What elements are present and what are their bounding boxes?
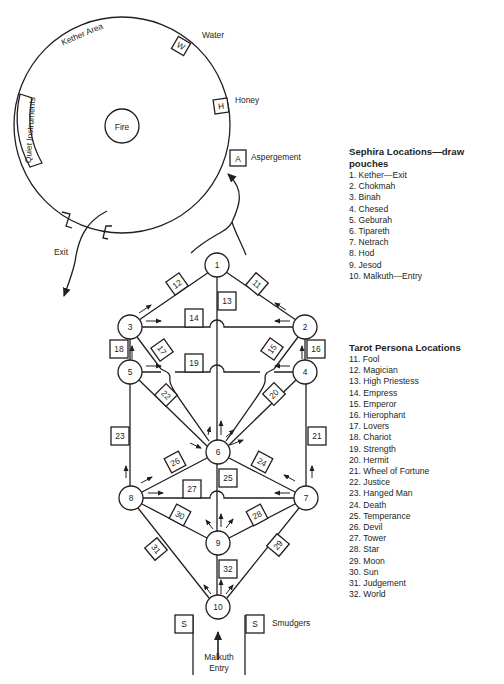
legend-item: 22. Justice	[349, 477, 461, 488]
node-label-4: 4	[303, 367, 308, 377]
path-label-19: 19	[189, 358, 199, 368]
water-label: Water	[202, 30, 224, 40]
legend-item: 13. High Priestess	[349, 376, 461, 387]
smudger-code-right: S	[252, 619, 258, 629]
legend-item: 20. Hermit	[349, 455, 461, 466]
legend-item: 29. Moon	[349, 556, 461, 567]
legend-item: 28. Star	[349, 544, 461, 555]
sephira-legend-list: 1. Kether—Exit 2. Chokmah 3. Binah 4. Ch…	[349, 170, 504, 282]
node-label-1: 1	[215, 260, 220, 270]
node-label-7: 7	[304, 493, 309, 503]
fire-label: Fire	[115, 122, 130, 132]
smudger-code-left: S	[181, 619, 187, 629]
legend-item: 15. Emperor	[349, 399, 461, 410]
node-label-8: 8	[129, 493, 134, 503]
node-label-3: 3	[128, 322, 133, 332]
legend-item: 24. Death	[349, 500, 461, 511]
legend-item: 12. Magician	[349, 365, 461, 376]
legend-item: 30. Sun	[349, 567, 461, 578]
kether-return-line	[232, 222, 246, 255]
legend-item: 4. Chesed	[349, 204, 504, 215]
path-label-16: 16	[311, 344, 321, 354]
path-label-27: 27	[187, 484, 197, 494]
path-label-32: 32	[223, 564, 233, 574]
node-label-2: 2	[303, 322, 308, 332]
malkuth-entry-label-line2: Entry	[209, 663, 229, 673]
node-label-9: 9	[216, 538, 221, 548]
aspergement-label: Aspergement	[251, 152, 301, 162]
legend-item: 23. Hanged Man	[349, 488, 461, 499]
legend-item: 26. Devil	[349, 522, 461, 533]
legend-item: 6. Tipareth	[349, 226, 504, 237]
legend-item: 21. Wheel of Fortune	[349, 466, 461, 477]
legend-item: 32. World	[349, 589, 461, 600]
sephira-legend: Sephira Locations—draw pouches 1. Kether…	[349, 146, 504, 282]
path-label-13: 13	[222, 296, 232, 306]
legend-item: 7. Netrach	[349, 237, 504, 248]
legend-item: 2. Chokmah	[349, 181, 504, 192]
tarot-legend-list: 11. Fool 12. Magician 13. High Priestess…	[349, 354, 461, 600]
honey-label: Honey	[235, 95, 260, 105]
malkuth-entry-label-line1: Malkuth	[204, 652, 234, 662]
node-label-5: 5	[128, 367, 133, 377]
tarot-legend: Tarot Persona Locations 11. Fool 12. Mag…	[349, 342, 461, 600]
path-label-21: 21	[312, 431, 322, 441]
exit-label: Exit	[54, 247, 69, 257]
tarot-legend-title: Tarot Persona Locations	[349, 342, 461, 354]
legend-item: 27. Tower	[349, 533, 461, 544]
legend-item: 3. Binah	[349, 192, 504, 203]
path-label-25: 25	[223, 473, 233, 483]
legend-item: 1. Kether—Exit	[349, 170, 504, 181]
legend-item: 9. Jesod	[349, 260, 504, 271]
node-label-10: 10	[213, 602, 223, 612]
kether-entry-arrow	[191, 174, 239, 253]
legend-item: 11. Fool	[349, 354, 461, 365]
path-label-14: 14	[189, 313, 199, 323]
sephira-legend-title: Sephira Locations—draw pouches	[349, 146, 504, 170]
exit-arrow	[64, 211, 107, 296]
legend-item: 31. Judgement	[349, 578, 461, 589]
smudgers-label: Smudgers	[272, 618, 310, 628]
path-label-18: 18	[114, 344, 124, 354]
legend-item: 10. Malkuth—Entry	[349, 271, 504, 282]
path-label-23: 23	[115, 431, 125, 441]
legend-item: 5. Geburah	[349, 215, 504, 226]
aspergement-code: A	[235, 154, 241, 164]
legend-item: 16. Hierophant	[349, 410, 461, 421]
legend-item: 18. Chariot	[349, 432, 461, 443]
legend-item: 14. Empress	[349, 388, 461, 399]
node-label-6: 6	[216, 447, 221, 457]
legend-item: 19. Strength	[349, 444, 461, 455]
legend-item: 25. Temperance	[349, 511, 461, 522]
legend-item: 17. Lovers	[349, 421, 461, 432]
legend-item: 8. Hod	[349, 248, 504, 259]
